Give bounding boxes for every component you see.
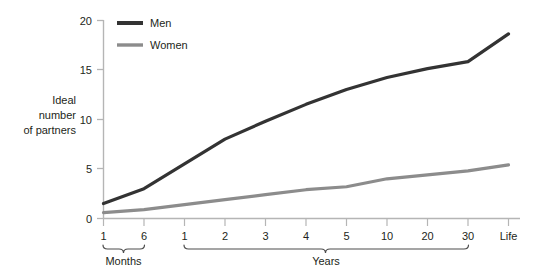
x-tick-label-years-5: 5 [343, 230, 349, 242]
x-group-label-months: Months [105, 255, 142, 267]
y-axis-title-line-3: of partners [23, 124, 76, 136]
x-tick-label-years-10: 10 [381, 230, 393, 242]
chart-background [0, 0, 539, 270]
x-tick-label-years-3: 3 [262, 230, 268, 242]
y-axis-title-line-1: Ideal [52, 94, 76, 106]
y-axis-title-line-2: number [39, 109, 77, 121]
y-tick-label-20: 20 [80, 15, 92, 27]
x-tick-label-life: Life [500, 230, 518, 242]
x-tick-label-years-20: 20 [421, 230, 433, 242]
y-tick-label-5: 5 [86, 163, 92, 175]
y-tick-label-0: 0 [86, 213, 92, 225]
x-tick-label-years-2: 2 [222, 230, 228, 242]
y-tick-label-10: 10 [80, 114, 92, 126]
legend-label-women: Women [150, 39, 188, 51]
x-tick-label-months-6: 6 [141, 230, 147, 242]
legend-label-men: Men [150, 17, 171, 29]
line-chart: 20 15 10 5 0 Ideal number of partners [0, 0, 539, 270]
x-tick-label-years-1: 1 [181, 230, 187, 242]
x-tick-label-months-1: 1 [100, 230, 106, 242]
y-tick-label-15: 15 [80, 64, 92, 76]
x-tick-label-years-30: 30 [462, 230, 474, 242]
x-group-label-years: Years [312, 255, 340, 267]
x-tick-label-years-4: 4 [303, 230, 309, 242]
chart-container: 20 15 10 5 0 Ideal number of partners [0, 0, 539, 270]
